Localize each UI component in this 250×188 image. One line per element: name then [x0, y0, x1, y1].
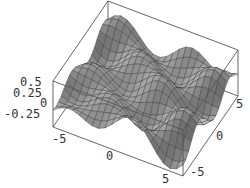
- surface-patch: [53, 107, 62, 111]
- x-tick-label: 0: [106, 149, 113, 163]
- z-tick-label: -0.25: [4, 107, 40, 121]
- y-tick-label: 5: [236, 97, 243, 111]
- y-tick-label: -5: [190, 165, 204, 179]
- z-tick-label: 0: [40, 96, 47, 110]
- y-tick-label: 0: [216, 129, 223, 143]
- x-tick-label: 5: [162, 172, 169, 186]
- surface-mesh: [53, 16, 238, 169]
- surface-plot-3d: 0.5 0.25 0 -0.25 -5 0 5 -5 0 5: [0, 0, 250, 188]
- z-tick-label: 0.25: [13, 86, 42, 100]
- x-tick-label: -5: [52, 132, 66, 146]
